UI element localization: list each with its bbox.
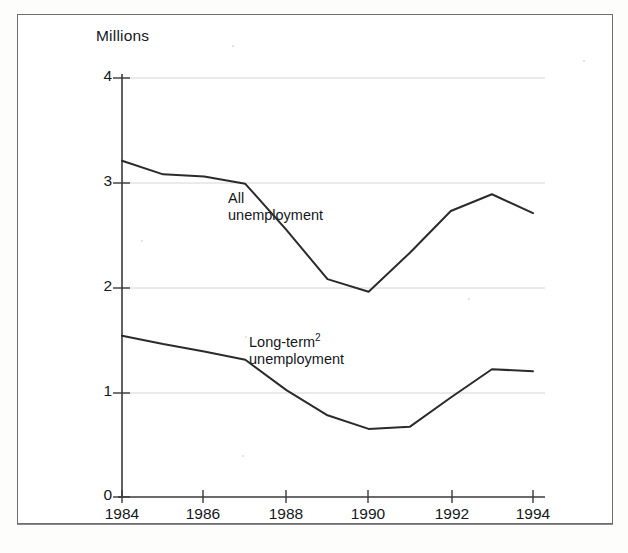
line-chart-plot [0, 0, 628, 553]
figure-page: Millions 4 3 2 1 0 1984 1986 1988 1990 1… [0, 0, 628, 553]
gridlines [122, 78, 545, 393]
series-line-longterm-unemployment [122, 336, 533, 429]
series-line-all-unemployment [122, 161, 533, 292]
